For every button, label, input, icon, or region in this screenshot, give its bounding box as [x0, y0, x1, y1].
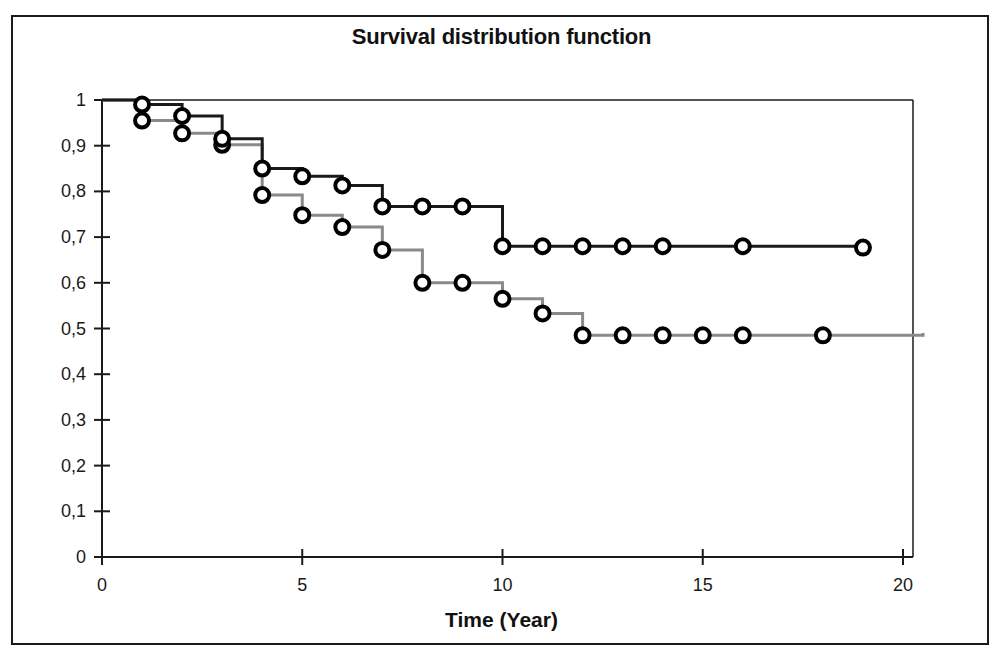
data-point-marker: [175, 109, 189, 123]
data-point-marker: [816, 328, 830, 342]
x-tick-label: 10: [492, 575, 512, 595]
y-tick-label: 0,3: [61, 410, 86, 430]
data-point-marker: [415, 199, 429, 213]
x-tick-label: 0: [97, 575, 107, 595]
tick-labels: 00,10,20,30,40,50,60,70,80,9105101520: [61, 90, 913, 595]
y-tick-label: 0: [76, 547, 86, 567]
data-point-marker: [496, 292, 510, 306]
x-tick-label: 20: [893, 575, 913, 595]
series-line-group-1: [102, 100, 863, 248]
y-tick-label: 0,7: [61, 227, 86, 247]
y-tick-label: 0,8: [61, 181, 86, 201]
y-tick-label: 0,6: [61, 273, 86, 293]
data-point-marker: [736, 239, 750, 253]
data-point-marker: [295, 208, 309, 222]
data-point-marker: [696, 328, 710, 342]
data-point-marker: [856, 241, 870, 255]
y-tick-label: 0,1: [61, 501, 86, 521]
data-point-marker: [335, 220, 349, 234]
x-axis-label: Time (Year): [0, 608, 1003, 632]
y-tick-label: 0,2: [61, 456, 86, 476]
axes: [94, 100, 913, 565]
data-point-marker: [415, 276, 429, 290]
data-point-marker: [175, 126, 189, 140]
data-point-marker: [656, 239, 670, 253]
data-point-marker: [135, 98, 149, 112]
data-point-marker: [135, 114, 149, 128]
data-point-marker: [656, 328, 670, 342]
x-tick-label: 5: [297, 575, 307, 595]
data-point-marker: [455, 199, 469, 213]
data-point-marker: [455, 276, 469, 290]
data-point-marker: [576, 328, 590, 342]
y-tick-label: 0,5: [61, 319, 86, 339]
data-point-marker: [215, 132, 229, 146]
data-point-marker: [736, 328, 750, 342]
chart-figure: Survival distribution function 00,10,20,…: [0, 0, 1003, 656]
data-point-marker: [536, 239, 550, 253]
data-point-marker: [616, 328, 630, 342]
data-point-marker: [255, 162, 269, 176]
data-point-marker: [536, 306, 550, 320]
x-tick-label: 15: [693, 575, 713, 595]
data-point-marker: [576, 239, 590, 253]
data-point-marker: [616, 239, 630, 253]
data-point-marker: [375, 243, 389, 257]
data-point-marker: [375, 199, 389, 213]
y-tick-label: 0,4: [61, 364, 86, 384]
data-point-marker: [295, 169, 309, 183]
y-tick-label: 0,9: [61, 136, 86, 156]
survival-plot: 00,10,20,30,40,50,60,70,80,9105101520: [0, 0, 1003, 656]
y-tick-label: 1: [76, 90, 86, 110]
data-point-marker: [496, 239, 510, 253]
data-point-marker: [255, 188, 269, 202]
data-point-marker: [335, 178, 349, 192]
